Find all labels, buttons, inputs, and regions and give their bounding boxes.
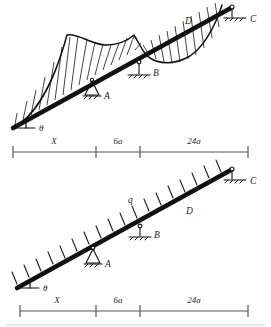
lower-uniform-load-ticks (12, 160, 221, 284)
upper-theta-label: θ (39, 123, 44, 133)
lower-theta-label: θ (43, 283, 48, 293)
upper-dimension-line (13, 146, 248, 158)
lower-label-a: A (104, 259, 111, 269)
upper-label-c: C (250, 14, 257, 24)
lower-label-d: D (185, 206, 193, 216)
upper-dim-x: X (50, 136, 57, 146)
upper-beam (13, 8, 231, 128)
lower-dim-x: X (53, 295, 60, 305)
lower-label-q: q (128, 195, 133, 205)
lower-dimension-line (20, 305, 248, 317)
lower-dim-6a: 6a (114, 295, 124, 305)
upper-support-c (224, 5, 246, 21)
figure-root: θ A B (0, 0, 271, 327)
upper-label-a: A (103, 91, 110, 101)
upper-diagram: θ A B (13, 3, 257, 158)
lower-beam (17, 170, 231, 288)
lower-dim-24a: 24a (187, 295, 201, 305)
upper-label-d: D (184, 16, 192, 26)
upper-dim-24a: 24a (187, 136, 201, 146)
upper-label-b: B (153, 68, 159, 78)
upper-dim-6a: 6a (114, 136, 124, 146)
lower-support-c (224, 167, 246, 183)
lower-label-c: C (250, 176, 257, 186)
beam-diagram-figure: θ A B (0, 0, 271, 327)
lower-diagram: θ q D A B (12, 160, 257, 317)
lower-label-b: B (154, 230, 160, 240)
